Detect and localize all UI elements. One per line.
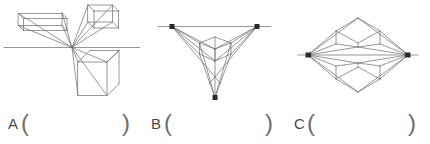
answer-blank-c[interactable] bbox=[318, 116, 406, 134]
three-point-perspective-diagram bbox=[143, 0, 287, 108]
one-point-perspective-diagram bbox=[0, 0, 144, 108]
question-label-c: C bbox=[294, 115, 305, 132]
open-paren-c: ( bbox=[307, 109, 315, 137]
question-panel-c: C ( ) bbox=[286, 0, 430, 144]
box-upper-right-face bbox=[88, 5, 113, 22]
vanishing-point-left bbox=[170, 24, 175, 29]
vanishing-point-bottom bbox=[213, 95, 218, 100]
two-point-perspective-diagram bbox=[286, 0, 430, 108]
open-paren-a: ( bbox=[21, 109, 29, 137]
question-label-b: B bbox=[151, 115, 161, 132]
box-lower-face bbox=[78, 62, 107, 96]
answer-row-c: C ( ) bbox=[286, 108, 430, 144]
close-paren-c: ) bbox=[408, 109, 416, 137]
vanishing-point-left bbox=[306, 53, 312, 58]
question-label-a: A bbox=[8, 115, 18, 132]
answer-row-b: B ( ) bbox=[143, 108, 287, 144]
close-paren-b: ) bbox=[265, 109, 273, 137]
vanishing-point-right bbox=[255, 24, 260, 29]
answer-blank-b[interactable] bbox=[175, 116, 263, 134]
vanishing-point-right bbox=[405, 53, 411, 58]
worksheet-page: A ( ) bbox=[0, 0, 430, 144]
open-paren-b: ( bbox=[164, 109, 172, 137]
answer-row-a: A ( ) bbox=[0, 108, 144, 144]
box-upper-left-face bbox=[19, 14, 63, 26]
answer-blank-a[interactable] bbox=[32, 116, 120, 134]
question-panel-a: A ( ) bbox=[0, 0, 144, 144]
question-panel-b: B ( ) bbox=[143, 0, 287, 144]
close-paren-a: ) bbox=[122, 109, 130, 137]
